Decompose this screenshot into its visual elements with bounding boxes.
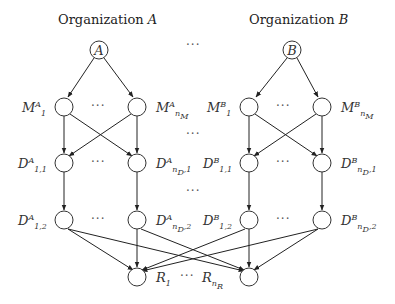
org-b-title: Organization B [249, 12, 348, 27]
ellipsis-mid-1: ··· [186, 127, 200, 141]
label-d11-b: DB1,1 [203, 157, 232, 170]
label-dn1-b: DBnD,1 [341, 157, 377, 172]
label-dn1-a: DAnD,1 [156, 157, 191, 172]
ellipsis-d2-b: ··· [276, 212, 290, 226]
org-a-title: Organization A [58, 12, 157, 27]
label-m1-a: MA1 [22, 101, 46, 114]
ellipsis-orgs: ··· [186, 38, 200, 52]
label-rn: RnR [202, 271, 223, 286]
ellipsis-m-b: ··· [276, 99, 290, 113]
ellipsis-d1-a: ··· [91, 155, 105, 169]
organization-diagram: A B Organization A Organization B MA1 MA… [0, 0, 395, 304]
label-d12-b: DB1,2 [203, 214, 232, 227]
root-label-a: A [93, 43, 103, 58]
label-dn2-b: DBnD,2 [341, 214, 377, 229]
ellipsis-d1-b: ··· [276, 155, 290, 169]
ellipsis-m-a: ··· [91, 99, 105, 113]
ellipsis-results: ··· [180, 269, 194, 283]
ellipsis-d2-a: ··· [91, 212, 105, 226]
label-d12-a: DA1,2 [18, 214, 47, 227]
label-mn-a: MAnM [156, 101, 188, 116]
label-r1: R1 [156, 271, 171, 284]
root-label-b: B [286, 43, 297, 58]
label-d11-a: DA1,1 [18, 157, 47, 170]
ellipsis-mid-2: ··· [186, 184, 200, 198]
label-m1-b: MB1 [207, 101, 231, 114]
label-mn-b: MBnM [341, 101, 374, 116]
label-dn2-a: DAnD,2 [156, 214, 191, 229]
